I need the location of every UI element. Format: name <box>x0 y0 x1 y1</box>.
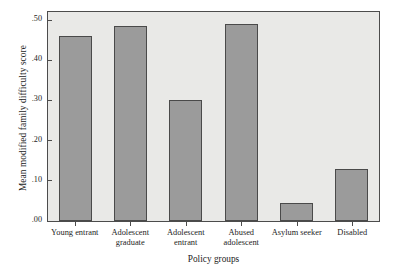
x-tick-label: Disabled <box>325 228 381 248</box>
x-axis-tick <box>103 222 159 227</box>
bar-slot <box>103 12 158 221</box>
x-axis-tick <box>269 222 325 227</box>
x-tick-mark <box>130 222 131 226</box>
x-tick-mark <box>241 222 242 226</box>
y-tick-label: .00 <box>32 215 42 224</box>
x-tick-label: Abusedadolescent <box>214 228 270 248</box>
x-tick-label: Young entrant <box>47 228 103 248</box>
bar-slot <box>269 12 324 221</box>
x-axis-tick <box>158 222 214 227</box>
y-axis-title: Mean modified family difficulty score <box>18 8 28 228</box>
x-tick-mark <box>352 222 353 226</box>
bar[interactable] <box>280 203 313 221</box>
bars-group <box>48 12 379 221</box>
x-tick-mark <box>297 222 298 226</box>
x-tick-label: Asylum seeker <box>269 228 325 248</box>
bar-slot <box>158 12 213 221</box>
x-axis-tick <box>47 222 103 227</box>
bar[interactable] <box>225 24 258 221</box>
bar-slot <box>214 12 269 221</box>
y-tick-label: .10 <box>32 175 42 184</box>
x-axis-tick-labels: Young entrantAdolescentgraduateAdolescen… <box>47 228 380 248</box>
x-axis-ticks <box>47 222 380 227</box>
y-tick-label: .50 <box>32 14 42 23</box>
y-tick-label: .40 <box>32 54 42 63</box>
bar-slot <box>48 12 103 221</box>
bar[interactable] <box>335 169 368 221</box>
x-tick-label: Adolescententrant <box>158 228 214 248</box>
x-axis-tick <box>325 222 381 227</box>
x-axis-title: Policy groups <box>47 254 380 264</box>
x-tick-mark <box>75 222 76 226</box>
x-tick-mark <box>186 222 187 226</box>
x-axis-tick <box>214 222 270 227</box>
y-tick-label: .30 <box>32 94 42 103</box>
bar-chart-figure: Mean modified family difficulty score .0… <box>0 0 398 280</box>
plot-area: .00.10.20.30.40.50 <box>47 11 380 222</box>
bar[interactable] <box>59 36 92 221</box>
x-tick-label: Adolescentgraduate <box>103 228 159 248</box>
y-tick-label: .20 <box>32 135 42 144</box>
bar-slot <box>324 12 379 221</box>
bar[interactable] <box>169 100 202 221</box>
bar[interactable] <box>114 26 147 221</box>
